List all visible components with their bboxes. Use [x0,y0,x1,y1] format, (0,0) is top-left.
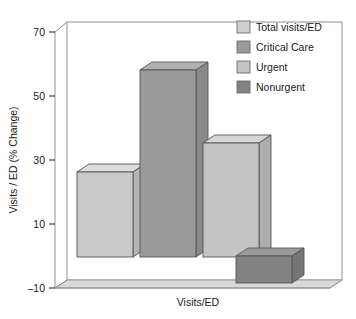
chart-container: 70 50 30 10 –10 Visits / ED (% Change) [0,0,356,319]
legend-item-label: Critical Care [256,41,314,53]
y-axis-title: Visits / ED (% Change) [7,106,19,213]
bar-front-face [203,143,259,257]
legend-item-label: Urgent [256,61,288,73]
y-tick-label-30: 30 [33,154,45,166]
legend-item-label: Nonurgent [256,81,305,93]
y-axis-ticks: 70 50 30 10 –10 [27,26,55,294]
floor-plane [55,280,342,288]
bar-urgent[interactable] [203,135,271,257]
legend-swatch [237,21,250,33]
y-tick-label-70: 70 [33,26,45,38]
legend-swatch [237,41,250,53]
bar-chart-3d: 70 50 30 10 –10 Visits / ED (% Change) [0,0,356,319]
y-tick-label-50: 50 [33,90,45,102]
legend-swatch [237,61,250,73]
y-axis-depth-top [55,22,67,32]
bar-critical-care[interactable] [140,62,208,257]
bar-total-visits-ed[interactable] [77,164,145,257]
legend-item-total-visits-ed[interactable]: Total visits/ED [237,21,322,33]
y-tick-label-10: 10 [33,218,45,230]
y-tick-label-minus-10: –10 [27,282,45,294]
legend-item-label: Total visits/ED [256,21,322,33]
legend-item-urgent[interactable]: Urgent [237,61,288,73]
bar-nonurgent[interactable] [236,248,304,283]
bar-front-face [77,172,133,257]
bar-front-face [236,256,292,283]
x-axis-title: Visits/ED [177,296,220,308]
legend-swatch [237,81,250,93]
bar-side-face [259,135,271,257]
legend-item-nonurgent[interactable]: Nonurgent [237,81,305,93]
legend-item-critical-care[interactable]: Critical Care [237,41,314,53]
bar-front-face [140,70,196,257]
